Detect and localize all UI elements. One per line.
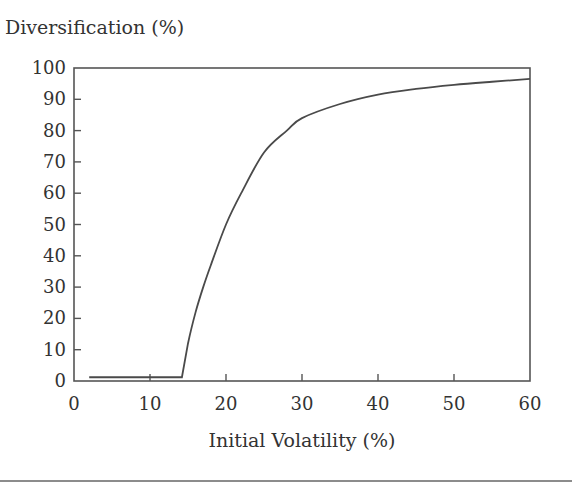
chart-canvas: Diversification (%) 01020304050607080901… xyxy=(0,0,572,485)
y-tick-label: 20 xyxy=(43,307,66,328)
x-tick-label: 10 xyxy=(139,393,162,414)
x-tick-label: 0 xyxy=(68,393,79,414)
x-tick-label: 60 xyxy=(519,393,542,414)
x-tick-label: 50 xyxy=(443,393,466,414)
y-tick-label: 70 xyxy=(43,151,66,172)
y-tick-label: 10 xyxy=(43,339,66,360)
x-tick-label: 30 xyxy=(291,393,314,414)
y-axis-label: Diversification (%) xyxy=(5,16,184,38)
x-tick-label: 40 xyxy=(367,393,390,414)
y-tick-label: 60 xyxy=(43,182,66,203)
y-tick-label: 40 xyxy=(43,245,66,266)
y-tick-label: 100 xyxy=(32,57,66,78)
plot-frame xyxy=(74,68,530,381)
chart-figure: Diversification (%) 01020304050607080901… xyxy=(0,0,572,485)
y-tick-label: 90 xyxy=(43,88,66,109)
y-tick-label: 30 xyxy=(43,276,66,297)
x-tick-label: 20 xyxy=(215,393,238,414)
x-axis-ticks: 0102030405060 xyxy=(68,374,541,414)
y-tick-label: 80 xyxy=(43,120,66,141)
x-axis-label: Initial Volatility (%) xyxy=(209,429,396,451)
y-tick-label: 50 xyxy=(43,214,66,235)
diversification-curve xyxy=(89,79,530,377)
y-tick-label: 0 xyxy=(55,370,66,391)
